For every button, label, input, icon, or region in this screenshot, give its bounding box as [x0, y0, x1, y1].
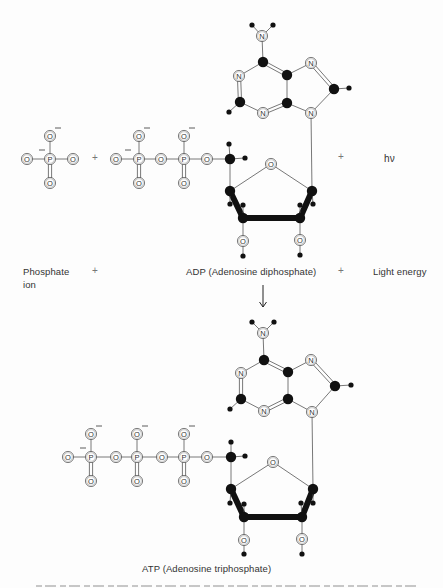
hydrogen-atom — [310, 500, 315, 505]
svg-text:P: P — [47, 155, 52, 164]
hydrogen-atom — [241, 551, 246, 556]
svg-text:N: N — [260, 109, 265, 118]
oxygen-atom: O — [178, 130, 189, 141]
svg-text:O: O — [134, 430, 140, 439]
oxygen-atom: O — [296, 533, 307, 544]
svg-text:O: O — [136, 179, 142, 188]
svg-text:P: P — [181, 155, 186, 164]
label-phosphate: Phosphate — [23, 266, 69, 277]
phosphate-ion-molecule: OPOOO — [21, 128, 78, 189]
hydrogen-atom — [348, 382, 353, 387]
svg-text:O: O — [47, 132, 53, 141]
hydrogen-atom — [240, 253, 245, 258]
svg-text:O: O — [204, 155, 210, 164]
carbon-atom — [308, 484, 318, 494]
svg-text:O: O — [181, 132, 187, 141]
svg-text:N: N — [308, 59, 313, 68]
hydrogen-atom — [228, 439, 233, 444]
carbon-atom — [295, 213, 305, 223]
carbon-atom — [282, 98, 292, 108]
carbon-atom — [329, 84, 339, 94]
oxygen-atom: O — [85, 428, 96, 439]
hydrogen-atom — [298, 500, 303, 505]
label-phosphate-ion: ion — [23, 279, 36, 290]
carbon-atom — [330, 381, 340, 391]
oxygen-atom: O — [67, 153, 78, 164]
svg-text:N: N — [260, 329, 265, 338]
oxygen-atom: O — [131, 475, 142, 486]
hydrogen-atom — [299, 551, 304, 556]
plus-sign-top-1: + — [92, 152, 98, 163]
hydrogen-atom — [249, 22, 254, 27]
hydrogen-atom — [242, 155, 247, 160]
hydrogen-atom — [226, 109, 231, 114]
svg-text:O: O — [159, 453, 165, 462]
hydrogen-atom — [297, 202, 302, 207]
oxygen-atom: O — [294, 234, 305, 245]
reaction-arrow — [260, 285, 267, 307]
svg-text:N: N — [238, 369, 243, 378]
hydrogen-atom — [270, 22, 275, 27]
oxygen-atom: O — [178, 475, 189, 486]
hydrogen-atom — [241, 501, 246, 506]
reaction-diagram: OPOOOOPOOOPOOOOOONNNNNOPOOOPOOOPOOOOOONN… — [0, 0, 443, 588]
plus-sign-1: + — [92, 265, 98, 276]
carbon-atom — [258, 57, 268, 67]
svg-text:N: N — [259, 32, 264, 41]
nitrogen-atom: N — [256, 30, 267, 41]
oxygen-atom: O — [201, 451, 212, 462]
nitrogen-atom: N — [233, 70, 244, 81]
oxygen-atom: O — [62, 451, 73, 462]
carbon-atom — [307, 186, 317, 196]
svg-text:O: O — [88, 430, 94, 439]
svg-text:N: N — [261, 407, 266, 416]
single-bond — [231, 462, 273, 489]
svg-text:O: O — [241, 536, 247, 545]
svg-text:N: N — [308, 356, 313, 365]
svg-text:O: O — [299, 535, 305, 544]
carbon-atom — [236, 394, 246, 404]
oxygen-atom: O — [85, 475, 96, 486]
oxygen-atom: O — [238, 534, 249, 545]
carbon-atom — [235, 97, 245, 107]
oxygen-atom: O — [44, 130, 55, 141]
svg-text:O: O — [65, 453, 71, 462]
single-bond — [271, 164, 312, 191]
svg-text:P: P — [181, 453, 186, 462]
label-light-energy: Light energy — [373, 266, 427, 277]
hydrogen-atom — [227, 500, 232, 505]
carbon-atom — [283, 367, 293, 377]
phosphorus-atom: P — [178, 451, 189, 462]
svg-text:O: O — [270, 458, 276, 467]
svg-text:O: O — [113, 155, 119, 164]
svg-text:P: P — [136, 155, 141, 164]
svg-text:O: O — [47, 179, 53, 188]
oxygen-atom: O — [178, 428, 189, 439]
oxygen-atom: O — [156, 451, 167, 462]
nitrogen-atom: N — [305, 57, 316, 68]
oxygen-atom: O — [178, 177, 189, 188]
clipped-caption-line — [36, 584, 416, 588]
svg-text:O: O — [24, 155, 30, 164]
hydrogen-atom — [227, 406, 232, 411]
carbon-atom — [226, 452, 236, 462]
svg-text:O: O — [158, 155, 164, 164]
carbon-atom — [225, 154, 235, 164]
svg-text:O: O — [181, 430, 187, 439]
carbon-atom — [238, 213, 248, 223]
oxygen-atom: O — [265, 158, 276, 169]
phosphorus-atom: P — [44, 153, 55, 164]
svg-text:O: O — [136, 132, 142, 141]
label-h-nu: hν — [384, 153, 395, 164]
svg-text:O: O — [70, 155, 76, 164]
svg-text:O: O — [181, 179, 187, 188]
single-bond — [311, 113, 312, 191]
single-bond — [273, 462, 313, 489]
plus-sign-2: + — [338, 265, 344, 276]
oxygen-atom: O — [155, 153, 166, 164]
label-adp: ADP (Adenosine diphosphate) — [186, 266, 316, 277]
svg-text:O: O — [113, 453, 119, 462]
svg-text:N: N — [308, 109, 313, 118]
phosphorus-atom: P — [85, 451, 96, 462]
nitrogen-atom: N — [305, 107, 316, 118]
